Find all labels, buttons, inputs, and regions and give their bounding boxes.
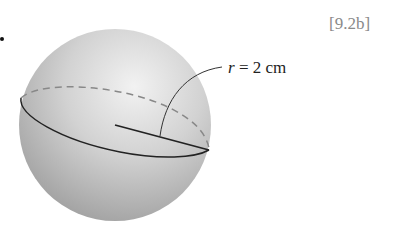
figure-reference: [9.2b] — [329, 14, 370, 34]
sphere-figure — [0, 0, 393, 248]
radius-value: 2 cm — [253, 58, 287, 77]
equals-sign: = — [235, 58, 253, 77]
radius-label: r = 2 cm — [228, 58, 286, 78]
radius-variable: r — [228, 58, 235, 77]
